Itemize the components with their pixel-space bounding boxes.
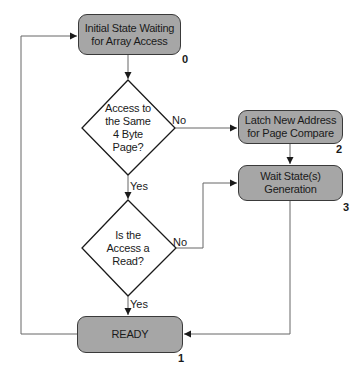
state-number-1: 1 <box>178 352 184 364</box>
state-box-latch-address: Latch New Address for Page Compare <box>238 110 343 144</box>
state-number-2: 2 <box>336 143 342 155</box>
edge-label-yes-is-read: Yes <box>130 298 148 310</box>
state-label-line2: Generation <box>260 183 321 196</box>
decision-text-same-page: Access to the Same 4 Byte Page? <box>88 102 168 154</box>
state-diagram: Initial State Waiting for Array Access 0… <box>0 0 364 376</box>
state-box-wait-states: Wait State(s) Generation <box>238 165 343 201</box>
decision-text-is-read: Is the Access a Read? <box>88 229 168 268</box>
state-label-line1: Initial State Waiting <box>85 22 175 35</box>
state-label-line1: Latch New Address <box>245 114 336 127</box>
state-label-line2: for Array Access <box>85 35 175 48</box>
edge-label-no-same-page: No <box>172 114 186 126</box>
state-number-0: 0 <box>182 53 188 65</box>
state-label-line1: Wait State(s) <box>260 170 321 183</box>
state-label-ready: READY <box>112 328 149 341</box>
state-label-line2: for Page Compare <box>245 127 336 140</box>
state-box-ready: READY <box>77 316 183 353</box>
state-box-initial: Initial State Waiting for Array Access <box>78 14 181 55</box>
state-number-3: 3 <box>343 201 349 213</box>
edge-label-no-is-read: No <box>173 236 187 248</box>
edge-label-yes-same-page: Yes <box>130 180 148 192</box>
